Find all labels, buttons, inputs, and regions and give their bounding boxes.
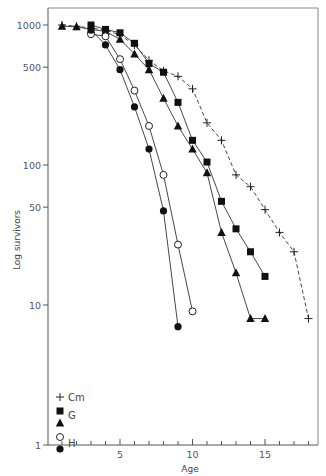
data-point [247,248,254,255]
data-point [217,228,225,236]
filled-circle-legend-icon [56,445,63,452]
series-line [62,25,309,319]
filled-triangle-legend-icon [56,419,64,427]
data-point [102,41,109,48]
x-tick-label: 10 [186,449,198,460]
data-point [102,33,109,40]
data-point [218,136,226,144]
data-point [174,323,181,330]
data-point [160,69,167,76]
data-point [232,268,240,276]
legend-label: G [68,410,76,421]
data-point [160,171,167,178]
data-point [262,273,269,280]
legend-label: H [68,438,76,449]
data-point [160,207,167,214]
x-tick-label: 15 [259,449,271,460]
data-point [145,145,152,152]
data-point [87,26,94,33]
plot-frame [48,8,318,445]
data-point [58,22,66,30]
data-point [131,87,138,94]
data-point [290,248,298,256]
legend: CmGH [56,392,85,453]
data-point [276,228,284,236]
data-point [246,314,254,322]
data-point [189,137,196,144]
data-point [232,171,240,179]
legend-label: Cm [68,392,85,403]
open-circle-legend-icon [57,434,64,441]
data-point [159,94,167,102]
x-axis: 51015 [62,439,309,460]
plus-legend-icon [56,393,64,401]
y-tick-label: 10 [29,300,41,311]
data-point [233,225,240,232]
data-point [204,159,211,166]
data-point [305,315,313,323]
series-line [91,25,265,276]
series-open-circle [88,31,197,315]
data-point [146,122,153,129]
data-point [116,66,123,73]
data-point [261,206,269,214]
y-tick-label: 50 [29,202,41,213]
data-point [175,99,182,106]
x-tick-label: 5 [117,449,123,460]
data-point [175,241,182,248]
survivorship-chart: 110501005001000 51015 CmGH Log survivors… [0,0,326,476]
data-point [174,121,182,129]
data-point [131,40,138,47]
data-point [188,145,196,153]
data-point [174,72,182,80]
x-axis-title: Age [181,464,199,474]
y-tick-label: 500 [23,62,41,73]
y-axis-title: Log survivors [12,210,22,270]
y-tick-label: 1000 [17,20,41,31]
data-point [131,103,138,110]
data-point [218,198,225,205]
data-series [58,21,313,330]
data-point [261,314,269,322]
data-point [117,56,124,63]
data-point [189,308,196,315]
y-tick-label: 100 [23,160,41,171]
y-tick-label: 1 [35,440,41,451]
filled-square-legend-icon [57,408,64,415]
